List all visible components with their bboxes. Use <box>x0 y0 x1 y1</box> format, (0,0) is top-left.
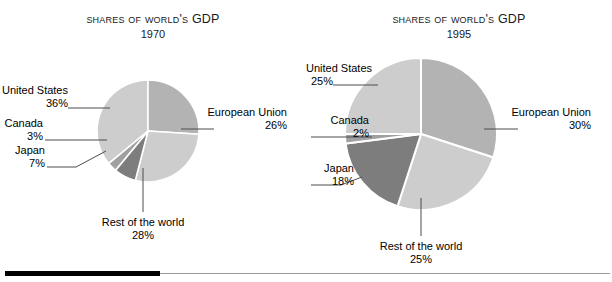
label-rest-of-world-name-1970: Rest of the world <box>95 216 191 229</box>
pie-slice-european-union-1970 <box>148 80 199 134</box>
label-rest-of-world-name-1995: Rest of the world <box>373 240 469 253</box>
pie-chart-1995: Shares of World's GDP 1995 Uni <box>306 0 612 282</box>
label-rest-of-world-1995: Rest of the world 25% <box>373 240 469 265</box>
label-european-union-1970: European Union 26% <box>199 106 287 131</box>
label-japan-name-1970: Japan <box>0 144 45 157</box>
label-canada-pct-1970: 3% <box>0 130 43 143</box>
label-canada-pct-1995: 2% <box>306 127 369 140</box>
leader-line-japan-1970 <box>47 151 106 167</box>
label-united-states-name-1970: United States <box>0 84 68 97</box>
label-united-states-1995: United States 25% <box>306 62 333 87</box>
label-japan-pct-1970: 7% <box>0 157 45 170</box>
label-united-states-name-1995: United States <box>306 62 333 75</box>
label-canada-name-1995: Canada <box>306 114 369 127</box>
label-united-states-pct-1970: 36% <box>0 97 68 110</box>
label-rest-of-world-pct-1970: 28% <box>95 229 191 242</box>
label-canada-1970: Canada 3% <box>0 117 43 142</box>
label-japan-1970: Japan 7% <box>0 144 45 169</box>
pie-chart-1970: Shares of World's GDP 1970 Uni <box>0 0 306 282</box>
label-canada-1995: Canada 2% <box>306 114 369 139</box>
label-japan-pct-1995: 18% <box>306 175 354 188</box>
label-japan-1995: Japan 18% <box>306 162 354 187</box>
label-european-union-pct-1995: 30% <box>503 119 591 132</box>
label-united-states-pct-1995: 25% <box>306 75 333 88</box>
label-rest-of-world-pct-1995: 25% <box>373 253 469 266</box>
label-european-union-pct-1970: 26% <box>199 119 287 132</box>
label-european-union-1995: European Union 30% <box>503 106 591 131</box>
label-japan-name-1995: Japan <box>306 162 354 175</box>
label-united-states-1970: United States 36% <box>0 84 68 109</box>
label-european-union-name-1970: European Union <box>199 106 287 119</box>
label-european-union-name-1995: European Union <box>503 106 591 119</box>
footer-rule-gray <box>160 273 610 274</box>
label-rest-of-world-1970: Rest of the world 28% <box>95 216 191 241</box>
footer-rule-black <box>5 271 160 276</box>
label-canada-name-1970: Canada <box>0 117 43 130</box>
gdp-shares-figure: Shares of World's GDP 1970 Uni <box>0 0 612 282</box>
